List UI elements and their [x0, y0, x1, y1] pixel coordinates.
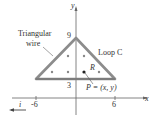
- wire-leader-line: [43, 47, 53, 56]
- triangular-wire-diagram: [0, 0, 153, 117]
- triangular-wire: [36, 38, 115, 79]
- unit-vector-arrow-icon: [9, 108, 14, 111]
- interior-dot: [67, 71, 69, 73]
- tick-label-x-neg6: -6: [31, 101, 38, 109]
- tick-label-y3: 3: [67, 82, 71, 90]
- wire-label-line1: Triangular: [18, 30, 51, 38]
- unit-vector-label: i: [19, 101, 21, 109]
- interior-dot: [83, 55, 85, 57]
- interior-dot: [51, 71, 53, 73]
- y-axis-label: y: [71, 2, 75, 10]
- region-r-label: R: [90, 64, 95, 72]
- interior-dot: [67, 55, 69, 57]
- tick-label-x6: 6: [112, 101, 116, 109]
- interior-dot: [98, 71, 100, 73]
- tick-label-y9: 9: [67, 32, 71, 40]
- loop-c-label: Loop C: [98, 49, 122, 57]
- point-p-label: P = (x, y): [86, 84, 117, 92]
- wire-label-line2: wire: [26, 40, 40, 48]
- x-axis-label: x: [145, 95, 149, 103]
